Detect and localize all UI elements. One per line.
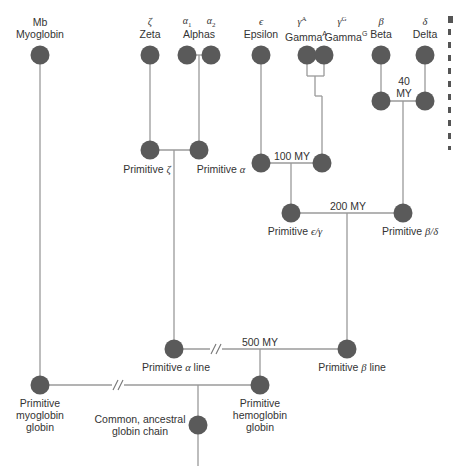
node-beta-branch bbox=[372, 92, 391, 111]
cropped-text-fragment bbox=[448, 29, 451, 35]
node-primitive-hemoglobin bbox=[251, 376, 270, 395]
label-primitive-epsilon-gamma: Primitive ϵ/γ bbox=[255, 225, 335, 238]
delta-symbol: δ bbox=[403, 16, 447, 28]
cropped-text-fragment bbox=[448, 81, 451, 87]
divergence-100my: 100 MY bbox=[270, 150, 314, 162]
label-delta: δ Delta bbox=[403, 16, 447, 40]
node-gamma-g bbox=[315, 46, 334, 65]
tree-nodes bbox=[31, 46, 435, 435]
gamma-g-symbol: γG bbox=[330, 14, 354, 27]
divergence-200my: 200 MY bbox=[326, 200, 370, 212]
node-common-ancestral bbox=[189, 416, 208, 435]
myoglobin-name: Myoglobin bbox=[10, 28, 70, 40]
myoglobin-symbol: Mb bbox=[10, 16, 70, 28]
label-common-ancestral: Common, ancestral globin chain bbox=[92, 413, 188, 437]
cropped-text-fragment bbox=[448, 146, 451, 150]
globin-evolution-tree: Mb Myoglobin ζ Zeta α1 α2 Alphas ϵ Epsil… bbox=[0, 0, 453, 474]
zeta-symbol: ζ bbox=[125, 16, 175, 28]
gamma-a-symbol: γA bbox=[290, 14, 314, 27]
node-delta bbox=[416, 46, 435, 65]
node-zeta bbox=[141, 46, 160, 65]
cropped-text-fragment bbox=[448, 42, 451, 48]
beta-symbol: β bbox=[361, 16, 401, 28]
node-delta-branch bbox=[416, 92, 435, 111]
cropped-text-fragment bbox=[448, 107, 451, 113]
cropped-text-fragment bbox=[448, 133, 451, 139]
label-primitive-beta-delta: Primitive β/δ bbox=[370, 225, 450, 238]
label-myoglobin: Mb Myoglobin bbox=[10, 16, 70, 40]
label-primitive-myoglobin: Primitive myoglobin globin bbox=[8, 397, 72, 433]
label-primitive-alpha: Primitive α bbox=[186, 163, 256, 176]
cropped-text-fragment bbox=[448, 94, 451, 100]
divergence-500my: 500 MY bbox=[238, 336, 282, 348]
node-primitive-alpha-line bbox=[165, 340, 184, 359]
epsilon-symbol: ϵ bbox=[236, 16, 286, 28]
label-primitive-alpha-line: Primitive α line bbox=[130, 361, 222, 374]
node-gamma-branch bbox=[313, 154, 332, 173]
cropped-text-fragment bbox=[448, 120, 451, 126]
node-primitive-myoglobin bbox=[31, 376, 50, 395]
node-myoglobin bbox=[31, 46, 50, 65]
label-zeta: ζ Zeta bbox=[125, 16, 175, 40]
cropped-text-fragment bbox=[448, 16, 453, 23]
zeta-name: Zeta bbox=[125, 28, 175, 40]
node-primitive-eps-gamma bbox=[282, 204, 301, 223]
epsilon-name: Epsilon bbox=[236, 28, 286, 40]
node-alpha2 bbox=[202, 46, 221, 65]
node-alpha1 bbox=[178, 46, 197, 65]
node-primitive-beta-delta bbox=[394, 204, 413, 223]
alphas-name: Alphas bbox=[174, 28, 224, 40]
delta-name: Delta bbox=[403, 28, 447, 40]
divergence-40my: 40 MY bbox=[393, 75, 415, 99]
node-gamma-a bbox=[298, 46, 317, 65]
label-primitive-zeta: Primitive ζ bbox=[112, 163, 182, 176]
beta-name: Beta bbox=[361, 28, 401, 40]
node-primitive-beta-line bbox=[338, 340, 357, 359]
label-primitive-hemoglobin: Primitive hemoglobin globin bbox=[228, 397, 292, 433]
label-epsilon: ϵ Epsilon bbox=[236, 16, 286, 40]
node-beta bbox=[372, 46, 391, 65]
node-primitive-zeta bbox=[141, 141, 160, 160]
node-epsilon bbox=[252, 46, 271, 65]
label-beta: β Beta bbox=[361, 16, 401, 40]
cropped-text-fragment bbox=[448, 68, 451, 74]
node-primitive-alpha bbox=[190, 141, 209, 160]
label-primitive-beta-line: Primitive β line bbox=[306, 361, 398, 374]
cropped-text-fragment bbox=[448, 55, 451, 61]
